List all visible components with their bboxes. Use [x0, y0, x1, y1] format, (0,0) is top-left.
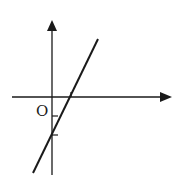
origin-label: O — [36, 102, 48, 120]
x-axis-arrow-icon — [160, 92, 172, 102]
y-axis-arrow-icon — [47, 20, 57, 31]
graph-canvas: O — [0, 0, 176, 187]
